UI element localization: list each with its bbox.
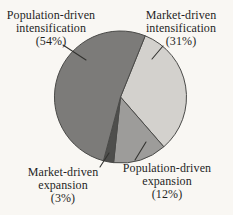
pie-chart-figure: Population-driven intensification (54%) … [0,0,233,215]
label-value: (54%) [0,35,103,48]
pie-slices [54,31,186,163]
label-population-expansion: Population-driven expansion (12%) [115,162,219,201]
label-value: (31%) [129,35,233,48]
label-market-expansion: Market-driven expansion (3%) [11,166,115,205]
label-value: (12%) [115,188,219,201]
label-value: (3%) [11,192,115,205]
label-population-intensification: Population-driven intensification (54%) [0,9,103,48]
label-market-intensification: Market-driven intensification (31%) [129,9,233,48]
